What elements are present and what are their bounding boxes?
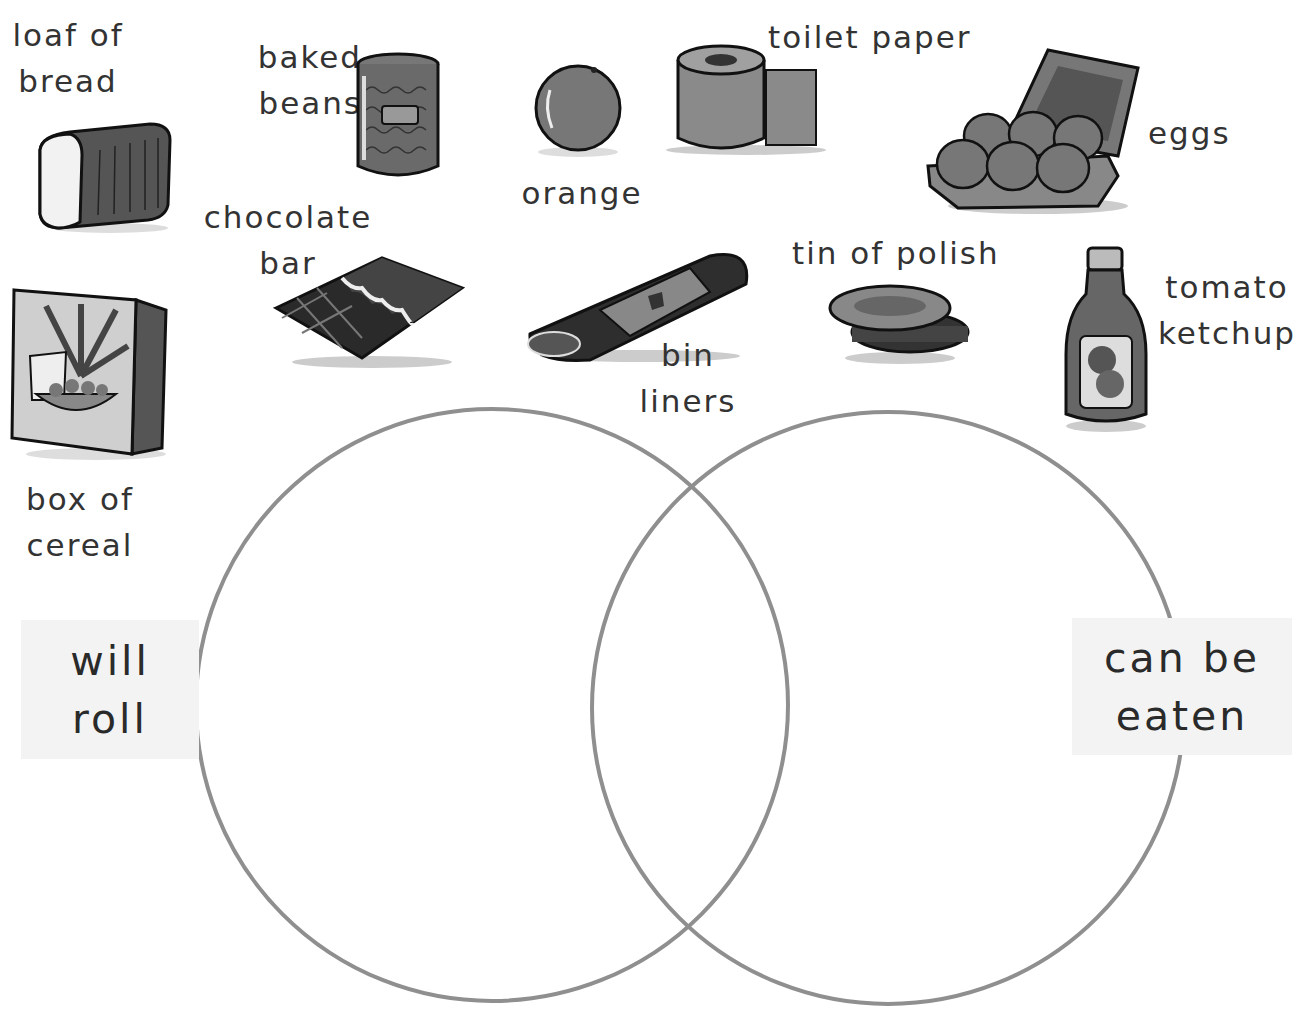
item-label-baked-beans: baked beans (232, 34, 362, 126)
right-set-label: can be eaten (1072, 618, 1292, 755)
tomato-ketchup-bottle-icon[interactable] (1058, 244, 1154, 434)
cereal-box-icon[interactable] (6, 276, 176, 462)
item-label-orange: orange (508, 170, 656, 216)
left-set-label: will roll (21, 620, 199, 759)
tin-of-polish-icon[interactable] (820, 276, 980, 366)
item-label-tomato-ketchup: tomato ketchup (1150, 264, 1304, 356)
baked-beans-can-icon[interactable] (352, 50, 444, 182)
item-label-bin-liners: bin liners (608, 332, 768, 424)
chocolate-bar-icon[interactable] (262, 248, 472, 370)
item-label-eggs: eggs (1148, 110, 1248, 156)
item-label-box-of-cereal: box of cereal (10, 476, 150, 568)
item-label-loaf-of-bread: loaf of bread (4, 12, 132, 104)
orange-icon[interactable] (522, 60, 634, 160)
item-label-tin-of-polish: tin of polish (792, 230, 1032, 276)
egg-carton-icon[interactable] (918, 46, 1148, 218)
left-set-circle (196, 409, 788, 1001)
bread-icon[interactable] (30, 110, 180, 235)
